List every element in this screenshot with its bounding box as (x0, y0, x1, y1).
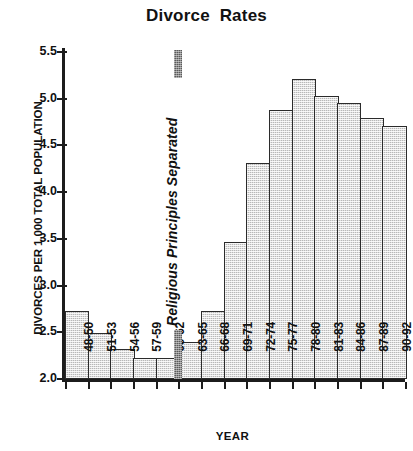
y-tick-mark (57, 51, 67, 53)
y-axis-title: DIVORCES PER 1,000 TOTAL POPULATION (32, 68, 44, 368)
x-tick-label: 87-89 (377, 322, 391, 392)
divorce-rates-figure: Divorce Rates DIVORCES PER 1,000 TOTAL P… (0, 0, 413, 451)
y-tick-label: 3.5 (40, 231, 57, 245)
y-tick-label: 4.5 (40, 137, 57, 151)
x-axis-title: YEAR (60, 430, 405, 442)
y-tick-mark (57, 285, 67, 287)
plot-area: 5.55.04.54.03.53.02.52.0 48-5051-5354-56… (62, 48, 405, 382)
x-tick-label: 81-83 (332, 322, 346, 392)
annotation-marker-top-icon (174, 50, 182, 78)
x-tick-label: 72-74 (264, 322, 278, 392)
x-tick-label: 78-80 (309, 322, 323, 392)
y-tick-label: 5.5 (40, 44, 57, 58)
x-tick-mark (65, 382, 67, 389)
y-tick-mark (57, 191, 67, 193)
x-tick-label: 90-92 (400, 322, 413, 392)
x-tick-label: 54-56 (128, 322, 142, 392)
annotation-marker-bottom-icon (174, 330, 182, 379)
x-tick-label: 51-53 (105, 322, 119, 392)
y-tick-label: 2.0 (40, 371, 57, 385)
y-tick-mark (57, 238, 67, 240)
annotation-label: Religious Principles Separated (164, 76, 180, 326)
x-tick-label: 84-86 (354, 322, 368, 392)
y-tick-label: 5.0 (40, 91, 57, 105)
y-tick-label: 2.5 (40, 324, 57, 338)
y-tick-mark (57, 144, 67, 146)
x-tick-label: 57-59 (150, 322, 164, 392)
y-tick-mark (57, 98, 67, 100)
chart-title: Divorce Rates (0, 6, 413, 26)
x-tick-label: 69-71 (241, 322, 255, 392)
x-tick-label: 66-68 (218, 322, 232, 392)
x-tick-label: 63-65 (196, 322, 210, 392)
x-tick-label: 48-50 (82, 322, 96, 392)
y-tick-label: 3.0 (40, 278, 57, 292)
y-tick-label: 4.0 (40, 184, 57, 198)
x-tick-label: 75-77 (286, 322, 300, 392)
